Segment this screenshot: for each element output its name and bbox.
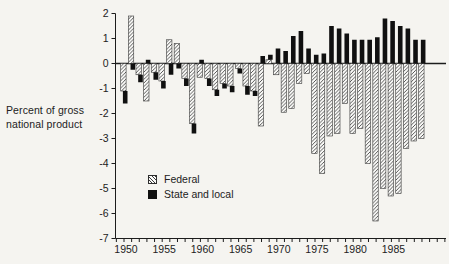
bar-federal-1955: [159, 64, 164, 82]
bar-state-local-1957: [176, 64, 181, 69]
bar-state-local-1974: [306, 49, 311, 64]
bar-federal-1987: [403, 64, 408, 149]
bar-federal-1984: [380, 64, 385, 189]
bar-state-local-1976: [322, 54, 327, 64]
bar-state-local-1985: [390, 21, 395, 64]
bar-state-local-1967: [253, 91, 258, 96]
y-axis-title-line2: national product: [6, 118, 84, 132]
bar-state-local-1989: [421, 40, 426, 64]
bar-state-local-1987: [406, 29, 411, 64]
state-local-solid-swatch-icon: [148, 190, 157, 199]
x-tick-label: 1960: [191, 243, 215, 255]
bar-federal-1989: [419, 64, 424, 139]
bar-federal-1988: [411, 64, 416, 142]
y-tick-label: -6: [99, 207, 108, 219]
bar-federal-1950: [121, 64, 126, 92]
y-axis-title: Percent of gross national product: [6, 104, 84, 131]
bar-federal-1986: [396, 64, 401, 194]
bar-federal-1979: [342, 64, 347, 104]
bar-federal-1963: [220, 64, 225, 84]
y-tick-label: 1: [103, 32, 109, 44]
bar-state-local-1956: [169, 64, 174, 75]
bar-federal-1960: [197, 64, 202, 78]
bar-federal-1965: [235, 64, 240, 69]
bar-federal-1964: [228, 64, 233, 87]
x-tick-label: 1975: [305, 243, 329, 255]
bar-federal-1962: [212, 64, 217, 90]
bar-federal-1961: [205, 64, 210, 79]
x-tick-label: 1980: [344, 243, 368, 255]
bar-federal-1954: [151, 64, 156, 73]
bar-state-local-1971: [283, 51, 288, 64]
bar-state-local-1962: [215, 90, 220, 96]
bar-state-local-1955: [161, 81, 166, 89]
bar-state-local-1970: [276, 49, 281, 64]
y-tick-label: -3: [99, 132, 108, 144]
x-tick-label: 1965: [229, 243, 253, 255]
x-tick-label: 1950: [114, 243, 138, 255]
bar-federal-1953: [144, 64, 149, 102]
chart-svg: 210-1-2-3-4-5-6-719501955196019651970197…: [0, 0, 449, 264]
bar-state-local-1979: [344, 34, 349, 64]
bar-state-local-1968: [260, 56, 265, 64]
legend-item-state-local: State and local: [148, 187, 233, 201]
legend-item-federal: Federal: [148, 172, 233, 186]
y-tick-label: 2: [103, 7, 109, 19]
bar-federal-1982: [365, 64, 370, 164]
bar-state-local-1961: [207, 79, 212, 87]
bar-state-local-1966: [245, 86, 250, 95]
x-tick-label: 1985: [382, 243, 406, 255]
bar-federal-1971: [281, 64, 286, 113]
budget-deficit-chart-figure: 210-1-2-3-4-5-6-719501955196019651970197…: [0, 0, 449, 264]
bar-federal-1957: [174, 44, 179, 64]
bar-federal-1958: [182, 64, 187, 79]
legend: Federal State and local: [148, 172, 233, 202]
bar-state-local-1973: [299, 31, 304, 64]
y-tick-label: -2: [99, 107, 108, 119]
bar-state-local-1953: [146, 60, 151, 64]
bar-federal-1972: [289, 64, 294, 109]
bar-state-local-1972: [291, 36, 296, 64]
y-tick-label: -7: [99, 232, 108, 244]
bar-state-local-1981: [360, 40, 365, 64]
bar-federal-1956: [167, 40, 172, 64]
bar-federal-1966: [243, 64, 248, 87]
bar-federal-1975: [312, 64, 317, 154]
bar-federal-1973: [296, 64, 301, 84]
bar-federal-1968: [258, 64, 263, 127]
bar-state-local-1978: [337, 29, 342, 64]
legend-label-federal: Federal: [164, 173, 200, 185]
x-tick-label: 1970: [267, 243, 291, 255]
bar-federal-1977: [327, 64, 332, 137]
bar-state-local-1952: [138, 75, 143, 83]
bar-state-local-1988: [413, 40, 418, 64]
bar-state-local-1982: [367, 40, 372, 64]
bar-state-local-1986: [398, 26, 403, 64]
bar-state-local-1975: [314, 55, 319, 64]
bar-federal-1967: [251, 64, 256, 92]
bar-state-local-1960: [199, 60, 204, 64]
bar-federal-1951: [128, 16, 133, 64]
legend-label-state-local: State and local: [164, 188, 233, 200]
bar-state-local-1969: [268, 55, 273, 60]
bar-federal-1970: [274, 64, 279, 75]
y-tick-label: -1: [99, 82, 108, 94]
bar-federal-1985: [388, 64, 393, 197]
bar-state-local-1980: [352, 40, 357, 64]
bar-state-local-1963: [222, 84, 227, 89]
bar-state-local-1958: [184, 79, 189, 87]
bar-state-local-1959: [192, 124, 197, 134]
bar-state-local-1951: [131, 64, 136, 70]
bar-federal-1980: [350, 64, 355, 134]
bar-state-local-1954: [153, 72, 158, 80]
bar-federal-1969: [266, 60, 271, 64]
federal-hatched-swatch-icon: [148, 175, 157, 184]
bar-federal-1978: [335, 64, 340, 134]
bar-state-local-1964: [230, 86, 235, 92]
bar-state-local-1984: [383, 19, 388, 64]
bar-federal-1959: [189, 64, 194, 124]
bar-state-local-1977: [329, 26, 334, 64]
bar-federal-1974: [304, 64, 309, 74]
bar-state-local-1950: [123, 91, 128, 104]
y-axis-title-line1: Percent of gross: [6, 104, 84, 118]
